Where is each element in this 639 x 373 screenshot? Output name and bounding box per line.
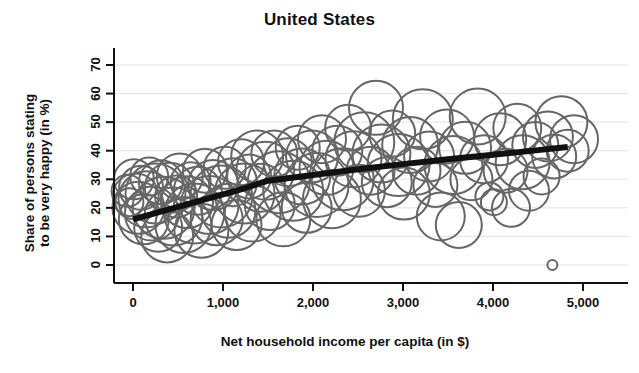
bubble-markers	[112, 81, 598, 270]
y-tick-label: 30	[88, 166, 103, 192]
y-tick-label: 20	[88, 194, 103, 220]
y-tick-label: 40	[88, 137, 103, 163]
bubble-marker	[436, 202, 482, 248]
x-tick-label: 0	[103, 295, 163, 310]
y-tick-label: 70	[88, 52, 103, 78]
bubble-marker	[493, 104, 541, 152]
chart-figure: United States Share of persons stating t…	[0, 0, 639, 373]
x-tick-label: 4,000	[463, 295, 523, 310]
bubble-marker	[334, 112, 394, 172]
x-tick-label: 2,000	[283, 295, 343, 310]
x-tick-label: 5,000	[553, 295, 613, 310]
y-tick-label: 60	[88, 80, 103, 106]
x-tick-label: 1,000	[193, 295, 253, 310]
y-tick-label: 50	[88, 109, 103, 135]
bubble-marker	[496, 135, 550, 189]
bubble-marker	[417, 192, 465, 240]
x-tick-label: 3,000	[373, 295, 433, 310]
y-tick-label: 0	[88, 252, 103, 278]
y-tick-label: 10	[88, 223, 103, 249]
